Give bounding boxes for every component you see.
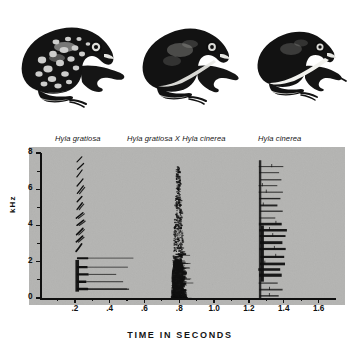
- x-minor-tick: [126, 298, 127, 301]
- x-minor-tick: [196, 298, 197, 301]
- x-tick-.4: [109, 298, 110, 303]
- y-tick-label: 2: [28, 256, 33, 266]
- y-tick-label: 8: [28, 147, 33, 157]
- frog-illustration-row: [0, 0, 360, 128]
- spectrogram-figure: Hyla gratiosa Hyla gratiosa X Hyla ciner…: [0, 0, 360, 355]
- x-minor-tick: [231, 298, 232, 301]
- frog-illustration-hybrid: [130, 16, 242, 106]
- species-caption-cinerea: Hyla cinerea: [258, 134, 301, 143]
- frog-illustration-striped: [247, 18, 351, 102]
- x-tick-label: .6: [141, 304, 148, 313]
- x-tick-label: 1.4: [278, 304, 289, 313]
- x-axis-title: TIME IN SECONDS: [0, 330, 360, 340]
- x-minor-tick: [161, 298, 162, 301]
- species-caption-hybrid: Hyla gratiosa X Hyla cinerea: [127, 134, 226, 143]
- x-tick-label: .4: [106, 304, 113, 313]
- x-tick-label: .2: [71, 304, 78, 313]
- spectrogram-panel: 02468 .2.4.6.81.01.21.41.6: [29, 147, 345, 305]
- x-axis-line: [40, 298, 336, 300]
- x-tick-1.0: [213, 298, 214, 303]
- x-minor-tick: [301, 298, 302, 301]
- x-minor-tick: [57, 298, 58, 301]
- x-tick-.6: [144, 298, 145, 303]
- y-axis-title: kHz: [8, 195, 17, 213]
- x-minor-tick: [92, 298, 93, 301]
- y-tick-label: 4: [28, 219, 33, 229]
- x-tick-label: 1.2: [243, 304, 254, 313]
- x-tick-1.4: [283, 298, 284, 303]
- species-caption-gratiosa: Hyla gratiosa: [55, 134, 101, 143]
- x-minor-tick: [266, 298, 267, 301]
- x-tick-label: 1.6: [313, 304, 324, 313]
- call-trace-cinerea: [40, 153, 336, 298]
- x-tick-label: 1.0: [208, 304, 219, 313]
- x-tick-1.2: [248, 298, 249, 303]
- x-tick-1.6: [318, 298, 319, 303]
- plot-area: 02468 .2.4.6.81.01.21.41.6: [40, 153, 336, 298]
- y-tick-label: 6: [28, 183, 33, 193]
- x-tick-.2: [74, 298, 75, 303]
- x-tick-.8: [179, 298, 180, 303]
- x-tick-label: .8: [176, 304, 183, 313]
- y-tick-label: 0: [28, 292, 33, 302]
- frog-illustration-spotted: [8, 14, 128, 110]
